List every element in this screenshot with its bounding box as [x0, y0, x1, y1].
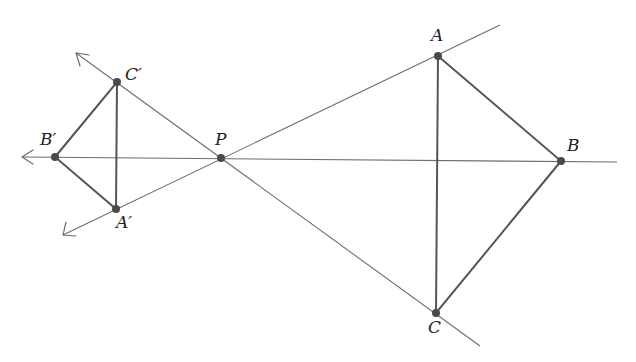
label-B: B [567, 137, 580, 154]
point-C-prime [113, 78, 121, 86]
diagram-canvas: P A B C A′ B′ C′ [0, 0, 636, 362]
line-BP [22, 157, 617, 162]
point-A [434, 52, 442, 60]
point-C [432, 309, 440, 317]
triangle-ABC [436, 56, 561, 313]
label-P: P [215, 131, 226, 148]
label-C: C [428, 319, 441, 336]
point-B [557, 157, 565, 165]
triangle-A-prime-B-prime-C-prime [55, 82, 117, 209]
label-C-prime: C′ [125, 66, 142, 83]
label-B-prime: B′ [40, 131, 56, 148]
label-A: A [431, 27, 443, 44]
point-B-prime [51, 153, 59, 161]
label-A-prime: A′ [116, 214, 132, 231]
diagram-svg [0, 0, 636, 362]
point-P [217, 154, 225, 162]
